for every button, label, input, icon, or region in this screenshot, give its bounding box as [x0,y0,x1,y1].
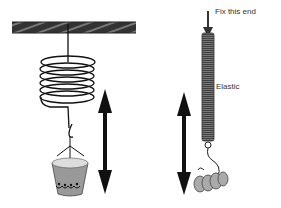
diagram-graphic [0,0,281,208]
fix-end-pin [203,11,213,33]
clip-and-string [198,142,219,176]
double-arrow-left [98,89,112,194]
weights [194,172,228,192]
double-arrow-right [177,92,191,195]
coil-spring [40,24,95,128]
elastic-band [202,33,214,141]
ceiling-bar [12,22,136,33]
bucket [52,124,88,196]
fix-end-label: Fix this end [215,7,256,16]
elastic-label: Elastic [216,82,240,91]
diagram-canvas: Fix this end Elastic [0,0,281,208]
